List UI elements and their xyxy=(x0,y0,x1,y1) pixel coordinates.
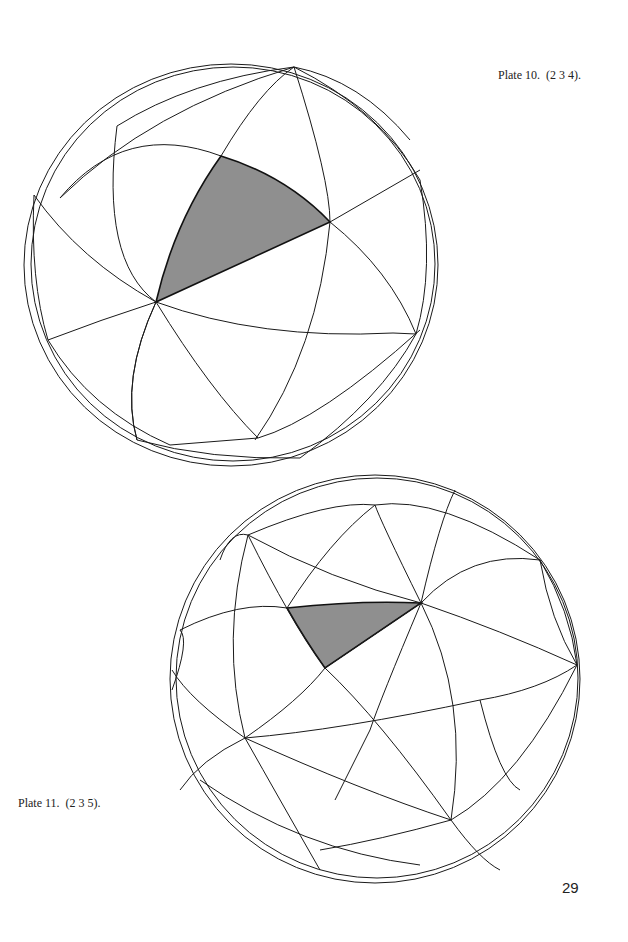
plate-11-caption: Plate 11. (2 3 5). xyxy=(18,796,101,811)
plate-11-shaded-triangle xyxy=(287,602,421,668)
page-number: 29 xyxy=(562,879,579,896)
plate-11-sphere xyxy=(170,475,580,883)
plate-10-caption: Plate 10. (2 3 4). xyxy=(498,68,581,83)
